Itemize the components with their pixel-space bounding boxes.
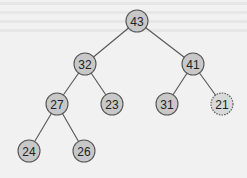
tree-diagram: 433241272331212426 xyxy=(0,0,247,178)
tree-node-32: 32 xyxy=(74,53,96,75)
tree-node-27: 27 xyxy=(46,93,68,115)
tree-node-23: 23 xyxy=(101,93,123,115)
tree-node-43: 43 xyxy=(126,10,148,32)
tree-node-31: 31 xyxy=(156,93,178,115)
node-label: 26 xyxy=(77,145,91,159)
nodes-group: 433241272331212426 xyxy=(18,10,233,162)
tree-node-24: 24 xyxy=(18,140,40,162)
node-label: 24 xyxy=(22,145,36,159)
node-label: 32 xyxy=(78,58,92,72)
node-label: 23 xyxy=(105,98,119,112)
node-label: 41 xyxy=(186,58,200,72)
tree-node-26: 26 xyxy=(73,140,95,162)
tree-node-21: 21 xyxy=(211,93,233,115)
tree-canvas: 433241272331212426 xyxy=(0,0,247,178)
edges-group xyxy=(29,21,222,151)
node-label: 27 xyxy=(50,98,64,112)
node-label: 43 xyxy=(130,15,144,29)
node-label: 21 xyxy=(215,98,229,112)
node-label: 31 xyxy=(160,98,174,112)
tree-node-41: 41 xyxy=(182,53,204,75)
